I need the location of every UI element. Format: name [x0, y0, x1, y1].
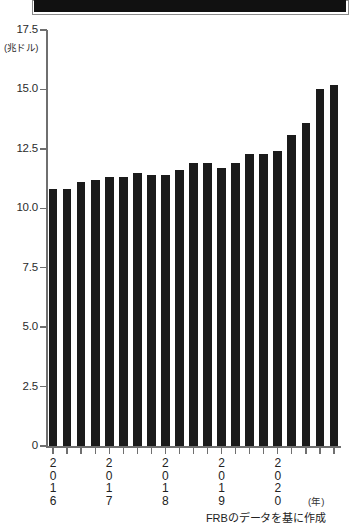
y-tick-label: 17.5	[0, 24, 38, 36]
x-tick-mark	[165, 447, 166, 454]
chart-root: (兆ドル) 17.515.012.510.07.55.02.50 2016201…	[0, 0, 351, 526]
x-year-digit: 1	[158, 482, 172, 495]
bar	[203, 163, 212, 446]
x-tick-mark	[221, 447, 222, 454]
x-year-digit: 2	[46, 457, 60, 470]
x-tick-mark	[80, 447, 81, 454]
x-axis-unit-label: (年)	[308, 494, 324, 508]
bar	[245, 154, 254, 446]
x-year-digit: 2	[158, 457, 172, 470]
y-tick-label: 7.5	[0, 262, 38, 274]
bar-group	[46, 30, 341, 446]
x-tick-mark	[249, 447, 250, 454]
x-tick-mark	[305, 447, 306, 454]
bar	[63, 189, 72, 446]
bar	[231, 163, 240, 446]
bar	[133, 173, 142, 446]
y-tick-label: 15.0	[0, 83, 38, 95]
x-tick-mark	[207, 447, 208, 454]
bar	[77, 182, 86, 446]
plot-area: (兆ドル) 17.515.012.510.07.55.02.50 2016201…	[0, 0, 351, 526]
bar	[49, 189, 58, 446]
x-year-label: 2019	[215, 457, 229, 507]
x-year-label: 2017	[102, 457, 116, 507]
y-tick-label: 0	[0, 440, 38, 452]
y-tick-label: 5.0	[0, 321, 38, 333]
x-tick-mark	[123, 447, 124, 454]
x-tick-mark	[179, 447, 180, 454]
x-year-digit: 7	[102, 495, 116, 508]
y-tick-label: 10.0	[0, 202, 38, 214]
y-tick-label: 2.5	[0, 381, 38, 393]
bar	[105, 177, 114, 446]
x-tick-mark	[277, 447, 278, 454]
x-year-digit: 2	[102, 457, 116, 470]
x-tick-mark	[137, 447, 138, 454]
bar	[330, 85, 339, 446]
x-tick-mark	[235, 447, 236, 454]
source-note: FRBのデータを基に作成	[206, 509, 326, 525]
x-year-digit: 1	[102, 482, 116, 495]
x-year-digit: 6	[46, 495, 60, 508]
bar	[273, 151, 282, 446]
x-tick-mark	[319, 447, 320, 454]
x-year-digit: 1	[215, 482, 229, 495]
x-tick-mark	[109, 447, 110, 454]
x-year-label: 2016	[46, 457, 60, 507]
bar	[161, 175, 170, 446]
x-year-digit: 2	[271, 482, 285, 495]
bar	[217, 168, 226, 446]
bar	[259, 154, 268, 446]
x-tick-mark	[66, 447, 67, 454]
bar	[147, 175, 156, 446]
x-tick-mark	[291, 447, 292, 454]
x-year-digit: 0	[271, 495, 285, 508]
x-year-digit: 2	[271, 457, 285, 470]
bar	[316, 89, 325, 446]
x-tick-mark	[95, 447, 96, 454]
bar	[189, 163, 198, 446]
x-year-label: 2020	[271, 457, 285, 507]
x-tick-mark	[151, 447, 152, 454]
bar	[302, 123, 311, 446]
bar	[287, 135, 296, 446]
x-year-digit: 2	[215, 457, 229, 470]
x-tick-mark	[193, 447, 194, 454]
x-year-digit: 9	[215, 495, 229, 508]
bar	[119, 177, 128, 446]
x-tick-mark	[52, 447, 53, 454]
bar	[175, 170, 184, 446]
y-axis-unit-label: (兆ドル)	[4, 43, 38, 53]
x-tick-mark	[263, 447, 264, 454]
x-year-digit: 1	[46, 482, 60, 495]
y-tick-label: 12.5	[0, 143, 38, 155]
x-tick-mark	[333, 447, 334, 454]
x-year-label: 2018	[158, 457, 172, 507]
bar	[91, 180, 100, 446]
x-year-digit: 8	[158, 495, 172, 508]
